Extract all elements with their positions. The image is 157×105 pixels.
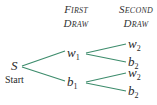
node-w1-symbol: w [67, 45, 76, 60]
edge-s-b1 [22, 67, 65, 81]
root-label-start: Start [5, 75, 24, 85]
node-b1: b1 [67, 75, 78, 93]
node-b1-w2-sub: 2 [137, 73, 141, 82]
edge-w1-w2 [86, 44, 126, 53]
node-w1: w1 [67, 46, 80, 64]
node-b1-w2: w2 [128, 66, 141, 84]
node-w1-w2-symbol: w [128, 36, 137, 51]
node-w1-w2-sub: 2 [137, 44, 141, 53]
edge-s-w1 [22, 51, 65, 66]
node-w1-sub: 1 [76, 53, 80, 62]
edge-b1-w2 [86, 73, 126, 82]
node-w1-w2: w2 [128, 37, 141, 55]
node-b1-sub: 1 [74, 82, 78, 91]
edge-b1-b2 [86, 83, 126, 91]
edge-w1-b2 [86, 54, 126, 62]
root-node-s: S [11, 59, 18, 72]
node-b1-w2-symbol: w [128, 65, 137, 80]
node-b1-b2-sub: 2 [135, 91, 139, 100]
node-b1-b2: b2 [128, 84, 139, 102]
